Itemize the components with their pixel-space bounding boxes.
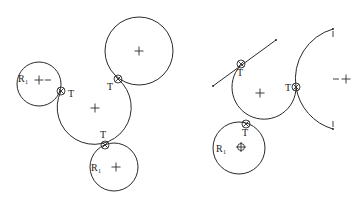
center-cross-icon	[112, 163, 121, 172]
center-cross-icon	[91, 104, 100, 113]
center-cross-icon	[135, 47, 144, 56]
tangent-label: T	[100, 129, 106, 140]
r1-label: R	[18, 73, 25, 84]
circle-r1-bottom: R 1	[90, 143, 138, 191]
r1-label: R	[216, 143, 223, 154]
r1-subscript: 1	[98, 168, 101, 174]
reverse-arc	[295, 28, 350, 130]
tangent-point-3: T	[100, 129, 109, 149]
center-cross-icon	[35, 76, 44, 85]
tangent-label: T	[237, 67, 243, 78]
tangent-point-2: T	[107, 75, 122, 92]
r1-subscript: 1	[223, 149, 226, 155]
tangent-point-reverse: T	[285, 82, 300, 93]
tangent-label: T	[285, 82, 291, 93]
tangent-label: T	[107, 81, 113, 92]
tangent-marker-icon	[101, 141, 109, 149]
center-cross-icon	[342, 75, 351, 84]
center-cross-icon	[256, 89, 265, 98]
tangent-label: T	[242, 127, 248, 138]
tangent-label: T	[68, 88, 74, 99]
r1-subscript: 1	[25, 79, 28, 85]
tangent-point-1: T	[57, 87, 74, 99]
r1-label: R	[91, 162, 98, 173]
circle-r1-top-left: R 1	[17, 62, 61, 106]
tangent-point-line: T	[237, 60, 245, 78]
tangent-arc-diagram: R 1 R 1 T T	[0, 0, 363, 205]
left-panel: R 1 R 1 T T	[17, 17, 173, 191]
circle-r1-right: R 1	[213, 122, 265, 174]
tangent-marker-icon	[114, 75, 122, 83]
circle-large-top-right	[105, 17, 173, 85]
right-panel: R 1 T T T	[212, 28, 351, 174]
